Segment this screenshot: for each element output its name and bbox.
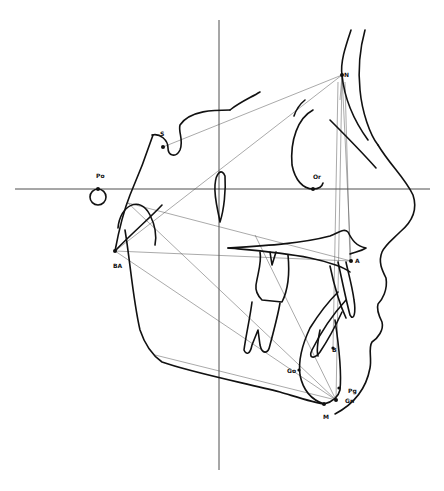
label-pogonion: Pg [348,388,357,394]
label-basion: BA [113,263,122,269]
label-porion: Po [96,173,105,179]
upper-molar [256,252,289,302]
cephalometric-tracing: S N Po Or BA A B Go Pg Gn M [0,0,444,491]
porion-ear-rod [90,189,106,205]
label-point-a: A [355,258,360,264]
label-gnathion: Gn [345,398,354,404]
anatomical-outlines [90,30,415,414]
label-nasion: N [344,72,349,78]
tracing-svg [0,0,444,491]
lower-molar [244,302,280,353]
lower-incisor [311,300,346,357]
soft-tissue-profile [335,145,415,414]
label-gonion: Go [287,368,296,374]
label-point-b: B [332,347,337,353]
label-menton: M [323,414,329,420]
label-orbitale: Or [313,174,321,180]
label-sella: S [160,131,164,137]
